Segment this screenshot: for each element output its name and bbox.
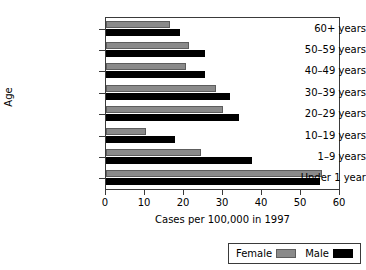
x-tick-mark bbox=[105, 190, 106, 195]
bar-female bbox=[106, 106, 223, 113]
legend-entry-female: Female bbox=[236, 249, 296, 259]
bar-female bbox=[106, 85, 216, 92]
bar-female bbox=[106, 128, 146, 135]
y-tick-mark bbox=[99, 29, 105, 30]
legend-label-female: Female bbox=[236, 249, 272, 259]
bar-female bbox=[106, 42, 189, 49]
bar-male bbox=[106, 114, 239, 121]
y-tick-mark bbox=[99, 114, 105, 115]
y-tick-label: 1–9 years bbox=[270, 152, 366, 162]
y-tick-mark bbox=[99, 157, 105, 158]
y-tick-label: 40–49 years bbox=[270, 66, 366, 76]
y-tick-mark bbox=[99, 136, 105, 137]
y-tick-label: 50–59 years bbox=[270, 45, 366, 55]
legend-label-male: Male bbox=[305, 249, 329, 259]
bar-chart-figure: Age Under 1 year1–9 years10–19 years20–2… bbox=[0, 0, 366, 270]
bar-male bbox=[106, 29, 180, 36]
bar-female bbox=[106, 63, 186, 70]
x-tick-label: 20 bbox=[168, 198, 198, 208]
bar-male bbox=[106, 71, 205, 78]
bar-male bbox=[106, 157, 252, 164]
bar-male bbox=[106, 93, 230, 100]
bar-female bbox=[106, 21, 170, 28]
y-tick-mark bbox=[99, 71, 105, 72]
x-tick-mark bbox=[222, 190, 223, 195]
chart-legend: Female Male bbox=[228, 243, 361, 264]
y-tick-mark bbox=[99, 178, 105, 179]
y-tick-mark bbox=[99, 50, 105, 51]
y-tick-mark bbox=[99, 93, 105, 94]
bar-male bbox=[106, 50, 205, 57]
y-tick-label: 10–19 years bbox=[270, 131, 366, 141]
x-tick-label: 50 bbox=[285, 198, 315, 208]
bar-male bbox=[106, 136, 175, 143]
female-swatch-icon bbox=[276, 249, 296, 258]
x-tick-mark bbox=[339, 190, 340, 195]
bar-female bbox=[106, 149, 201, 156]
x-tick-label: 60 bbox=[324, 198, 354, 208]
y-axis-title: Age bbox=[4, 77, 14, 117]
y-tick-label: 20–29 years bbox=[270, 109, 366, 119]
x-axis-title: Cases per 100,000 in 1997 bbox=[105, 214, 340, 225]
male-swatch-icon bbox=[333, 249, 353, 258]
x-tick-mark bbox=[144, 190, 145, 195]
y-tick-label: Under 1 year bbox=[270, 173, 366, 183]
x-tick-label: 0 bbox=[90, 198, 120, 208]
x-tick-mark bbox=[300, 190, 301, 195]
x-tick-label: 30 bbox=[207, 198, 237, 208]
y-tick-label: 30–39 years bbox=[270, 88, 366, 98]
legend-entry-male: Male bbox=[305, 249, 353, 259]
y-tick-label: 60+ years bbox=[270, 24, 366, 34]
x-tick-label: 10 bbox=[129, 198, 159, 208]
x-tick-label: 40 bbox=[246, 198, 276, 208]
x-tick-mark bbox=[261, 190, 262, 195]
x-tick-mark bbox=[183, 190, 184, 195]
